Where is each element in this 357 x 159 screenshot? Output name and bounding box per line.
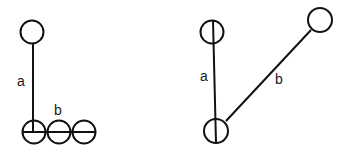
right-figure <box>201 8 333 143</box>
right-string-b <box>226 30 311 121</box>
right-label-b: b <box>275 71 283 87</box>
right-string-a <box>213 21 216 144</box>
pendulum-diagram: a b a b <box>0 0 357 159</box>
right-upper-bob <box>308 8 332 32</box>
left-label-b: b <box>54 102 62 118</box>
left-figure <box>21 21 96 144</box>
right-top-bob <box>201 21 224 44</box>
right-label-a: a <box>200 68 208 84</box>
left-top-bob <box>21 21 44 44</box>
diagram-canvas: a b a b <box>0 0 357 159</box>
left-label-a: a <box>17 73 25 89</box>
